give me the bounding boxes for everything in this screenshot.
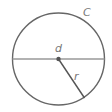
center-point	[56, 57, 60, 61]
circle-diagram: C d r	[0, 0, 112, 112]
radius-line	[59, 59, 85, 98]
diameter-label: d	[55, 42, 63, 55]
radius-label: r	[74, 70, 80, 83]
circumference-label: C	[83, 6, 91, 19]
